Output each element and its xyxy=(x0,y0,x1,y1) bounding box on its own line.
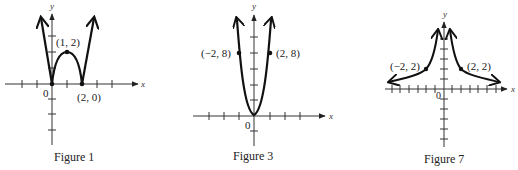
point-origin xyxy=(50,82,55,87)
curve-left-branch xyxy=(389,30,438,82)
figure-caption: Figure 7 xyxy=(424,152,464,166)
curve-left-arrow xyxy=(237,18,238,20)
origin-label: 0 xyxy=(43,87,49,99)
figure-1: (1, 2) (2, 0) 0 x y Figure 1 xyxy=(5,1,145,164)
label-point-2-8: (2, 8) xyxy=(276,47,300,60)
point-neg2-2 xyxy=(424,67,428,71)
label-point-neg2-8: (−2, 8) xyxy=(201,47,231,60)
y-axis-label: y xyxy=(442,9,447,19)
origin-label: 0 xyxy=(436,90,441,101)
origin-label: 0 xyxy=(245,119,251,131)
label-point-2-0: (2, 0) xyxy=(77,91,101,104)
figure-caption: Figure 3 xyxy=(233,149,273,163)
point-neg2-8 xyxy=(237,51,242,56)
x-axis-label: x xyxy=(328,111,333,121)
curve-right-branch xyxy=(450,30,499,82)
figure-caption: Figure 1 xyxy=(54,150,94,164)
figure-7: (−2, 2) (2, 2) 0 x y Figure 7 xyxy=(385,9,515,166)
figure-3: (−2, 8) (2, 8) 0 x y Figure 3 xyxy=(193,1,333,163)
point-1-2 xyxy=(65,50,70,55)
label-point-2-2: (2, 2) xyxy=(467,60,491,73)
y-axis-label: y xyxy=(251,1,256,11)
curve-right-arrow xyxy=(271,18,272,20)
y-axis-label: y xyxy=(49,1,54,11)
point-2-0 xyxy=(80,82,85,87)
point-2-2 xyxy=(459,67,463,71)
curve-right-arm xyxy=(82,18,94,84)
label-point-neg2-2: (−2, 2) xyxy=(390,60,420,73)
x-axis-label: x xyxy=(510,84,515,94)
point-2-8 xyxy=(268,51,273,56)
label-point-1-2: (1, 2) xyxy=(56,36,80,49)
curve-hump xyxy=(52,52,82,84)
figures-canvas: (1, 2) (2, 0) 0 x y Figure 1 xyxy=(0,0,518,170)
x-axis-label: x xyxy=(140,79,145,89)
curve-left-arm xyxy=(41,18,52,84)
